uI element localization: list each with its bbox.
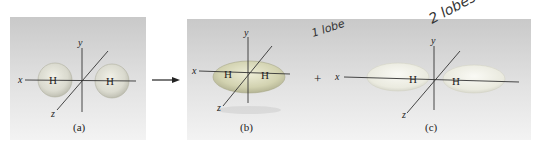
antibonding-lobe-left <box>367 63 429 91</box>
x-axis-label: x <box>334 71 340 82</box>
y-axis-label: y <box>430 35 436 46</box>
reaction-arrow <box>152 77 180 83</box>
panel-a: x y z H H (a) <box>17 37 136 134</box>
orbital-shadow <box>217 106 281 114</box>
atom-h-right: H <box>261 69 269 81</box>
annotation-1-lobe: 1 lobe <box>310 17 347 40</box>
z-axis-label: z <box>216 102 221 113</box>
caption-a: (a) <box>73 121 86 134</box>
z-axis-label: z <box>401 109 406 120</box>
atom-h-left: H <box>49 74 57 86</box>
caption-c: (c) <box>425 121 438 134</box>
panel-b: x y z H H (b) 1 lobe <box>191 17 347 134</box>
atom-h-right: H <box>452 75 460 87</box>
atom-h-left: H <box>224 68 232 80</box>
x-axis-label: x <box>17 74 23 85</box>
arrow-head-icon <box>172 77 180 83</box>
z-axis-label: z <box>50 108 55 119</box>
atom-h-right: H <box>106 75 114 87</box>
plus-sign: + <box>314 71 321 86</box>
orbital-diagram: x y z H H (a) x y z H H (b) 1 lobe + x y… <box>0 0 538 149</box>
panel-c: x y z H H (c) 2 lobes <box>334 0 519 134</box>
y-axis-label: y <box>243 27 249 38</box>
annotation-2-lobes: 2 lobes <box>426 0 478 27</box>
y-axis-label: y <box>77 37 83 48</box>
x-axis-label: x <box>191 65 197 76</box>
caption-b: (b) <box>240 121 253 134</box>
atom-h-left: H <box>409 73 417 85</box>
